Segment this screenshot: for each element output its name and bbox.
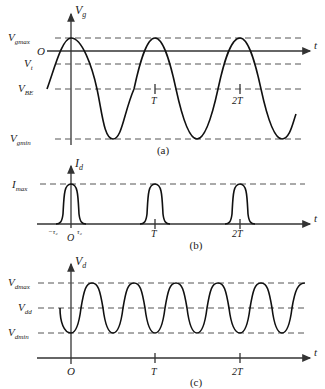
caption-b: (b): [190, 239, 203, 252]
id-pulse-2t: [225, 184, 255, 224]
id-axis-label: Id: [74, 156, 84, 172]
origin-label-a: O: [37, 45, 45, 57]
vdmin-label: Vdmin: [8, 326, 29, 341]
panel-a: Vg t O Vgmax Vt VBE Vgmin T 2T (a): [8, 3, 318, 157]
vd-axis-label: Vd: [75, 254, 87, 270]
vbe-label: VBE: [18, 82, 34, 97]
vgmax-label: Vgmax: [8, 31, 31, 46]
tick-label-2t-a: 2T: [232, 95, 244, 106]
caption-c: (c): [190, 376, 203, 389]
origin-label-b: O: [67, 232, 74, 243]
tick-label-2t-b: 2T: [232, 228, 244, 239]
tick-label-t-a: T: [151, 95, 158, 106]
caption-a: (a): [157, 144, 170, 157]
vg-axis-label: Vg: [75, 3, 86, 19]
t-axis-label-b: t: [314, 212, 318, 224]
panel-c: Vd Vdmax Vdd Vdmin t O T 2T (c): [8, 254, 318, 389]
id-pulse-t: [140, 184, 170, 224]
panel-b: Id Imax t −τ₂ O τ₂ T 2T (b): [11, 156, 318, 252]
t-axis-label-c: t: [314, 346, 318, 358]
waveform-diagram: Vg t O Vgmax Vt VBE Vgmin T 2T (a) Id Im…: [0, 0, 325, 389]
vdmax-label: Vdmax: [8, 276, 31, 291]
tau-label: τ₂: [77, 228, 83, 236]
tick-label-2t-c: 2T: [232, 366, 244, 377]
vt-label: Vt: [24, 57, 34, 72]
imax-label: Imax: [11, 178, 28, 193]
vdd-label: Vdd: [18, 301, 32, 316]
vgmin-label: Vgmin: [10, 132, 31, 147]
neg-tau-label: −τ₂: [48, 228, 58, 236]
tick-label-t-b: T: [151, 228, 158, 239]
origin-label-c: O: [67, 365, 75, 377]
t-axis-label-a: t: [314, 39, 318, 51]
tick-label-t-c: T: [151, 366, 158, 377]
